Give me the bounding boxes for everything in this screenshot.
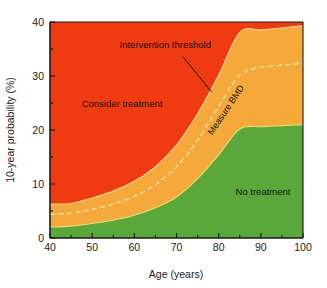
y-axis-title: 10-year probability (%) bbox=[4, 77, 16, 183]
y-tick-label: 30 bbox=[32, 70, 44, 82]
y-tick-label: 0 bbox=[38, 232, 44, 244]
x-axis-title: Age (years) bbox=[149, 268, 203, 280]
osteoporosis-intervention-threshold-chart: Intervention thresholdConsider treatment… bbox=[0, 0, 327, 288]
x-tick-label: 70 bbox=[171, 241, 183, 253]
x-tick-label: 80 bbox=[213, 241, 225, 253]
y-tick-label: 20 bbox=[32, 124, 44, 136]
x-tick-label: 100 bbox=[294, 241, 312, 253]
x-tick-label: 40 bbox=[44, 241, 56, 253]
y-tick-label: 40 bbox=[32, 16, 44, 28]
annotation-intervention-threshold: Intervention threshold bbox=[120, 39, 211, 50]
annotation-consider-treatment: Consider treatment bbox=[82, 98, 163, 109]
x-tick-label: 50 bbox=[86, 241, 98, 253]
x-tick-label: 90 bbox=[255, 241, 267, 253]
plot-area bbox=[50, 22, 303, 238]
x-tick-label: 60 bbox=[128, 241, 140, 253]
chart-figure: Intervention thresholdConsider treatment… bbox=[0, 0, 327, 288]
y-tick-label: 10 bbox=[32, 178, 44, 190]
annotation-no-treatment: No treatment bbox=[236, 186, 291, 197]
